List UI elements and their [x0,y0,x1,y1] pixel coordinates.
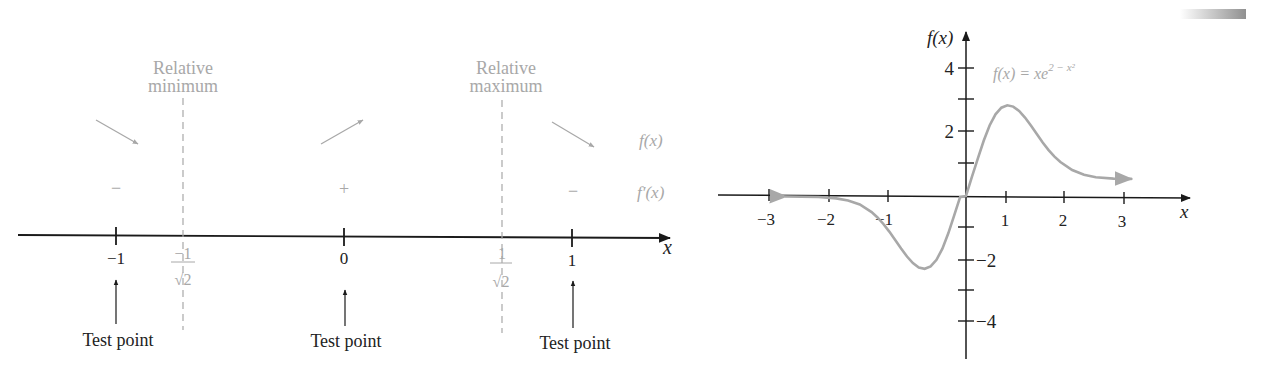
sign-chart: x −1 0 1 Relative minimum Relative maxim… [18,58,672,353]
y-tick-label-neg2: −2 [976,250,996,271]
test-point-label-3: Test point [539,333,610,353]
y-tick-label-4: 4 [945,58,955,79]
function-curve [786,105,1131,268]
x-tick-label-neg3: −3 [757,210,775,229]
sign-interval-2: + [339,179,349,199]
relative-max-label-bottom: maximum [470,76,543,96]
graph-y-axis-label: f(x) [927,27,953,49]
fraction-inv-sqrt2: 1 √2 [490,245,512,290]
x-tick-label-1: 1 [1001,211,1010,230]
graph-x-axis-label: x [1179,201,1189,222]
svg-text:−1: −1 [174,245,191,262]
decreasing-arrow-icon [96,120,138,144]
number-line-x-label: x [662,236,672,258]
test-point-label-2: Test point [310,331,381,351]
row-label-f: f(x) [639,131,663,150]
x-tick-label-2: 2 [1059,211,1068,230]
svg-text:1: 1 [498,245,506,262]
relative-min-label-top: Relative [153,58,213,78]
tick-label-neg1: −1 [107,249,125,268]
y-tick-label-neg4: −4 [976,311,997,332]
y-tick-label-2: 2 [945,121,955,142]
tick-label-1: 1 [568,251,577,270]
sign-interval-1: − [111,178,121,198]
svg-text:√2: √2 [175,271,192,288]
increasing-arrow-icon [321,120,363,144]
row-label-fprime: f′(x) [637,183,665,202]
figure-canvas: x −1 0 1 Relative minimum Relative maxim… [0,0,1261,383]
relative-min-label-bottom: minimum [148,76,218,96]
equation-label: f(x) = xe2 − x² [993,61,1076,83]
decorative-bar [1180,9,1246,19]
relative-max-label-top: Relative [476,58,536,78]
svg-text:√2: √2 [493,273,510,290]
decreasing-arrow-icon [552,122,594,147]
sign-interval-3: − [568,181,578,201]
tick-label-0: 0 [340,249,349,268]
test-point-label-1: Test point [82,330,153,350]
x-tick-label-neg2: −2 [817,210,835,229]
function-graph: x f(x) −3 −2 −1 1 2 3 4 [718,9,1246,359]
x-tick-label-3: 3 [1118,212,1127,231]
